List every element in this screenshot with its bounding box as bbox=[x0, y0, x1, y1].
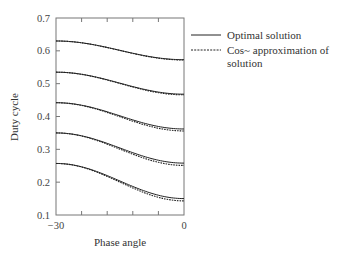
legend-label-cos-line2: solution bbox=[227, 57, 263, 69]
optimal-solution-line bbox=[56, 41, 184, 60]
optimal-solution-line bbox=[56, 103, 184, 129]
x-axis-label: Phase angle bbox=[94, 236, 146, 248]
cos-approximation-line bbox=[56, 72, 184, 95]
optimal-solution-line bbox=[56, 163, 184, 198]
y-tick-label: 0.7 bbox=[37, 13, 50, 24]
y-tick-label: 0.5 bbox=[37, 78, 50, 89]
y-tick-label: 0.3 bbox=[37, 144, 50, 155]
cos-approximation-line bbox=[56, 133, 184, 166]
optimal-solution-line bbox=[56, 133, 184, 163]
cos-approximation-line bbox=[56, 163, 184, 200]
legend: Optimal solution Cos~ approximation of s… bbox=[191, 29, 329, 69]
legend-label-optimal: Optimal solution bbox=[227, 29, 302, 41]
y-axis-ticks: 0.10.20.30.40.50.60.7 bbox=[37, 13, 60, 221]
y-tick-label: 0.6 bbox=[37, 45, 50, 56]
y-tick-label: 0.2 bbox=[37, 177, 50, 188]
y-tick-label: 0.1 bbox=[37, 210, 50, 221]
legend-label-cos-line1: Cos~ approximation of bbox=[227, 44, 329, 56]
series-lines bbox=[56, 41, 184, 201]
y-tick-label: 0.4 bbox=[37, 111, 51, 122]
x-tick-label: −30 bbox=[48, 220, 64, 231]
y-axis-label: Duty cycle bbox=[8, 93, 20, 141]
cos-approximation-line bbox=[56, 103, 184, 131]
x-tick-label: 0 bbox=[181, 220, 186, 231]
chart: 0.10.20.30.40.50.60.7 −300 Duty cycle Ph… bbox=[0, 0, 342, 257]
